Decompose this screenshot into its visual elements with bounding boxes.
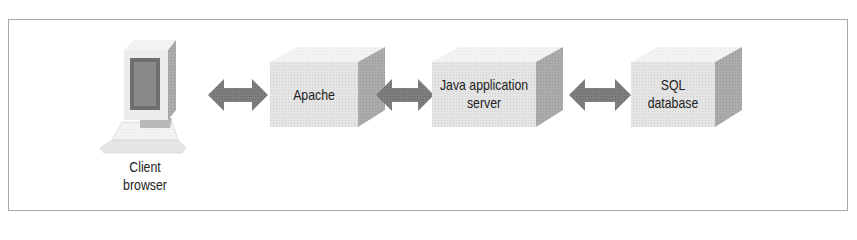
client-label-line2: browser [116,176,173,194]
java-label-line1: Java application [435,76,533,94]
apache-label-line1: Apache [278,86,350,104]
apache-label: Apache [278,86,350,104]
client-label-line1: Client [116,158,173,176]
java-app-server-label: Java application server [435,76,533,112]
desktop-computer-icon [100,40,186,153]
sql-database-label: SQL database [639,76,708,112]
java-label-line2: server [435,94,533,112]
sql-label-line1: SQL [639,76,708,94]
bidirectional-arrow-icon [208,79,268,111]
bidirectional-arrow-icon [569,79,631,111]
sql-label-line2: database [639,94,708,112]
client-browser-label: Client browser [116,158,173,194]
